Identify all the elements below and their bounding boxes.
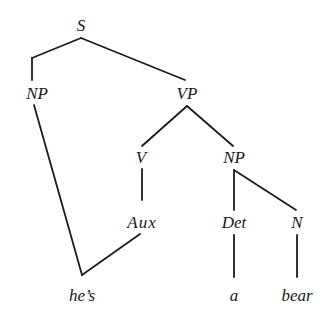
node-n: N [291,214,302,231]
node-aux: Aux [127,214,156,231]
node-vp: VP [177,85,198,102]
edge-s-vp [81,38,185,80]
word-bear: bear [281,287,312,304]
node-np-object: NP [223,149,245,166]
tree-edges [0,0,331,323]
edge-vp-np [187,106,233,146]
word-a: a [230,287,239,304]
node-det: Det [222,214,247,231]
word-hes: he’s [69,287,95,304]
node-np-subject: NP [26,85,48,102]
edge-s-np [32,38,81,58]
node-s: S [77,17,86,34]
syntax-tree-diagram: S NP VP V NP Aux Det N he’s a bear [0,0,331,323]
node-v: V [136,149,146,166]
edge-vp-v [142,106,187,146]
edge-np-hes [34,105,82,275]
edge-aux-hes [82,234,140,275]
edge-np-n [234,170,296,210]
